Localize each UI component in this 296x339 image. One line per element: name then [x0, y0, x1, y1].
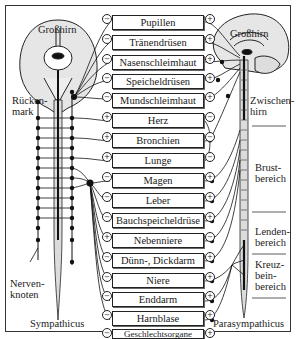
sympathetic-effect-icon: − — [102, 92, 112, 102]
sympathetic-effect-icon: − — [102, 34, 112, 44]
parasympathetic-effect-icon: + — [205, 73, 215, 83]
parasympathetic-effect-icon: + — [205, 172, 215, 182]
thoracic-region-label: Brust- bereich — [255, 162, 286, 184]
organ-box: Mundschleimhaut — [112, 93, 204, 108]
parasympathetic-effect-icon: − — [205, 152, 215, 162]
sympathetic-effect-icon: + — [102, 112, 112, 122]
sympathetic-effect-icon: − — [102, 54, 112, 64]
sympathetic-effect-icon: − — [102, 73, 112, 83]
sympathetic-effect-icon: − — [102, 291, 112, 301]
organ-box: Bronchien — [112, 133, 204, 148]
sympathetic-effect-icon: + — [102, 152, 112, 162]
organ-box: Herz — [112, 113, 204, 128]
parasympathetic-effect-icon: + — [205, 14, 215, 24]
organ-box: Speicheldrüsen — [112, 74, 204, 89]
parasympathetic-effect-icon: + — [205, 54, 215, 64]
lumbar-region-label: Lenden- bereich — [255, 226, 290, 248]
organ-box: Lunge — [112, 153, 204, 168]
parasympathetic-effect-icon: + — [205, 92, 215, 102]
ganglion-label: Nerven- knoten — [10, 278, 44, 300]
organ-box: Niere — [112, 273, 204, 288]
sympathetic-effect-icon: − — [102, 328, 112, 338]
parasympathetic-effect-icon: + — [205, 34, 215, 44]
left-brain-label: Großhirn — [38, 24, 77, 35]
organ-box: Nebenniere — [112, 233, 204, 248]
parasympathetic-effect-icon: + — [205, 272, 215, 282]
parasympathetic-effect-icon: − — [205, 232, 215, 242]
right-brain-label: Großhirn — [230, 28, 269, 39]
organ-box: Geschlechtsorgane — [112, 329, 204, 339]
right-brain-icon — [213, 14, 288, 73]
organ-box: Leber — [112, 193, 204, 208]
sympathetic-effect-icon: − — [102, 252, 112, 262]
sacral-region-label: Kreuz- bein- bereich — [255, 259, 286, 292]
organ-box: Pupillen — [112, 15, 204, 30]
parasympathetic-effect-icon: + — [205, 192, 215, 202]
sympathetic-effect-icon: − — [102, 212, 112, 222]
sympathetic-effect-icon: − — [102, 14, 112, 24]
organ-box: Bauchspeicheldrüse — [112, 213, 204, 228]
organ-box: Magen — [112, 173, 204, 188]
sympathetic-effect-icon: − — [102, 272, 112, 282]
parasympathetic-effect-icon: + — [205, 212, 215, 222]
organ-box: Dünn-, Dickdarm — [112, 253, 204, 268]
sympathetic-effect-icon: + — [102, 232, 112, 242]
sympathetic-effect-icon: − — [102, 172, 112, 182]
parasympathetic-effect-icon: − — [205, 132, 215, 142]
organ-box: Enddarm — [112, 292, 204, 307]
parasympathetic-effect-icon: + — [205, 252, 215, 262]
organ-box: Harnblase — [112, 311, 204, 326]
parasympathetic-effect-icon: + — [205, 291, 215, 301]
parasympathetic-effect-icon: + — [205, 310, 215, 320]
organ-box: Tränendrüsen — [112, 35, 204, 50]
spinal-cord-label: Rücken- mark — [12, 95, 48, 117]
parasympathetic-label: Parasympathicus — [213, 318, 284, 329]
parasympathetic-effect-icon: + — [205, 328, 215, 338]
sympathetic-effect-icon: − — [102, 192, 112, 202]
parasympathetic-effect-icon: − — [205, 112, 215, 122]
sympathetic-effect-icon: − — [102, 310, 112, 320]
sympathetic-effect-icon: + — [102, 132, 112, 142]
organ-box: Nasenschleimhaut — [112, 55, 204, 70]
sympathetic-label: Sympathicus — [30, 318, 84, 329]
diencephalon-label: Zwischen- hirn — [250, 95, 294, 117]
